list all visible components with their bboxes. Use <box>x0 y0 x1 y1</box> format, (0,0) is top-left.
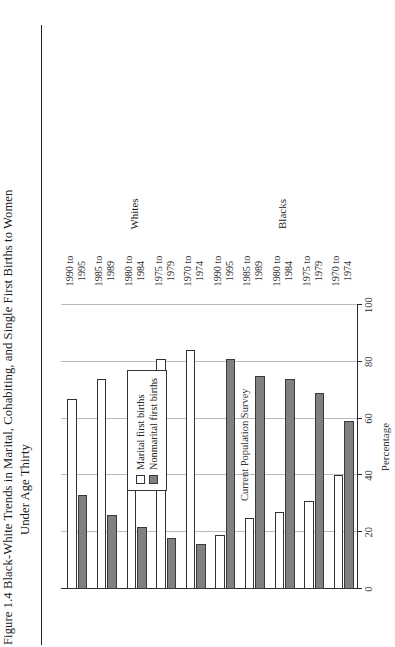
bar-blacks-1985-to-1989-nonmarital <box>255 376 265 589</box>
category-label-whites-0: 1970 to1974 <box>182 243 206 299</box>
category-label-whites-2: 1980 to1984 <box>123 243 147 299</box>
source-note: Current Population Survey <box>239 388 250 501</box>
category-label-blacks-4: 1990 to1995 <box>212 243 236 299</box>
bar-whites-1985-to-1989-nonmarital <box>107 515 117 589</box>
bar-whites-1990-to-1995-nonmarital <box>78 495 88 589</box>
legend-swatch-marital-icon <box>136 475 145 484</box>
tick-100 <box>357 304 362 305</box>
tick-label-60: 60 <box>363 413 374 424</box>
category-label-whites-4: 1990 to1995 <box>64 243 88 299</box>
tick-label-40: 40 <box>363 470 374 481</box>
title-divider <box>41 25 42 645</box>
value-axis-title: Percentage <box>379 423 391 471</box>
gridline-80 <box>61 361 357 362</box>
category-label-blacks-1: 1975 to1979 <box>301 243 325 299</box>
tick-label-80: 80 <box>363 357 374 368</box>
category-label-blacks-0: 1970 to1974 <box>330 243 354 299</box>
bar-whites-1985-to-1989-marital <box>97 379 107 589</box>
legend-swatch-nonmarital-icon <box>149 475 158 484</box>
category-label-blacks-2: 1980 to1984 <box>271 243 295 299</box>
tick-label-0: 0 <box>363 586 374 591</box>
bar-whites-1975-to-1979-nonmarital <box>167 538 177 589</box>
plot-area: 020406080100 Percentage <box>61 305 357 589</box>
figure-stage: Figure 1.4 Black-White Trends in Marital… <box>0 0 395 647</box>
legend-item-nonmarital: Nonmarital first births <box>148 378 159 484</box>
bar-whites-1970-to-1974-marital <box>186 350 196 589</box>
legend-label: Marital first births <box>135 395 146 471</box>
figure-title-line-1: Figure 1.4 Black-White Trends in Marital… <box>0 0 17 647</box>
bar-blacks-1990-to-1995-marital <box>215 535 225 589</box>
bar-blacks-1970-to-1974-nonmarital <box>344 421 354 589</box>
tick-80 <box>357 361 362 362</box>
bar-blacks-1975-to-1979-nonmarital <box>315 393 325 589</box>
group-label-blacks: Blacks <box>276 187 288 241</box>
category-axis-line <box>357 305 358 589</box>
tick-0 <box>357 588 362 589</box>
legend-label: Nonmarital first births <box>148 378 159 470</box>
figure-title-line-2: Under Age Thirty <box>17 0 34 647</box>
tick-40 <box>357 474 362 475</box>
tick-label-20: 20 <box>363 527 374 538</box>
category-label-whites-3: 1985 to1989 <box>93 243 117 299</box>
group-label-whites: Whites <box>128 187 140 241</box>
tick-20 <box>357 531 362 532</box>
bar-blacks-1980-to-1984-nonmarital <box>285 379 295 589</box>
tick-label-100: 100 <box>363 297 374 313</box>
bar-whites-1990-to-1995-marital <box>67 399 77 589</box>
bar-blacks-1970-to-1974-marital <box>334 475 344 589</box>
category-label-blacks-3: 1985 to1989 <box>241 243 265 299</box>
figure-title: Figure 1.4 Black-White Trends in Marital… <box>0 0 46 647</box>
bar-blacks-1985-to-1989-marital <box>245 518 255 589</box>
category-label-whites-1: 1975 to1979 <box>153 243 177 299</box>
bar-blacks-1980-to-1984-marital <box>275 512 285 589</box>
gridline-100 <box>61 304 357 305</box>
bar-blacks-1990-to-1995-nonmarital <box>226 359 236 589</box>
legend-item-marital: Marital first births <box>135 378 146 484</box>
bar-whites-1970-to-1974-nonmarital <box>196 544 206 589</box>
legend: Marital first birthsNonmarital first bir… <box>127 370 167 491</box>
bar-blacks-1975-to-1979-marital <box>304 501 314 589</box>
tick-60 <box>357 418 362 419</box>
bar-whites-1980-to-1984-nonmarital <box>137 527 147 589</box>
